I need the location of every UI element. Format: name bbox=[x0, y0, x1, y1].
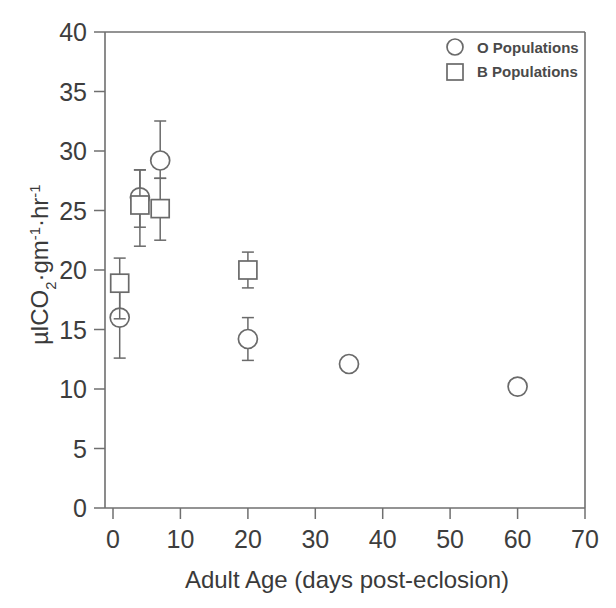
marker-square bbox=[239, 261, 257, 279]
x-tick-label-10: 10 bbox=[166, 525, 194, 553]
series-o-populations bbox=[110, 121, 527, 396]
x-tick-label-0: 0 bbox=[106, 525, 120, 553]
y-axis-title-sup1a: -1 bbox=[27, 227, 43, 240]
legend-circle-icon bbox=[447, 39, 463, 55]
x-axis-ticks: 0 10 20 30 40 50 60 70 bbox=[106, 508, 599, 553]
marker-square bbox=[111, 274, 129, 292]
x-tick-label-50: 50 bbox=[436, 525, 464, 553]
y-axis-ticks: 40 35 30 25 20 15 10 5 0 bbox=[59, 18, 105, 522]
y-tick-label-25: 25 bbox=[59, 197, 87, 225]
x-tick-label-20: 20 bbox=[234, 525, 262, 553]
legend-item-o-populations: O Populations bbox=[447, 39, 579, 56]
scatter-plot-svg: 40 35 30 25 20 15 10 5 0 0 10 2 bbox=[0, 0, 616, 608]
plot-frame bbox=[105, 32, 585, 508]
marker-circle bbox=[340, 355, 359, 374]
y-axis-title-prefix: µlCO bbox=[26, 290, 53, 345]
data-point bbox=[238, 318, 257, 361]
y-axis-title-mid: ·gm bbox=[26, 240, 53, 281]
data-point bbox=[340, 355, 359, 374]
data-point bbox=[131, 170, 149, 246]
x-axis-title: Adult Age (days post-eclosion) bbox=[185, 566, 509, 593]
y-tick-label-40: 40 bbox=[59, 18, 87, 46]
y-axis-title: µlCO2·gm-1·hr-1 bbox=[26, 184, 59, 345]
legend-item-b-populations: B Populations bbox=[447, 63, 578, 80]
y-tick-label-0: 0 bbox=[73, 494, 87, 522]
y-axis-title-sub2: 2 bbox=[43, 282, 59, 290]
marker-square bbox=[151, 200, 169, 218]
legend-label-o: O Populations bbox=[477, 39, 579, 56]
marker-circle bbox=[508, 377, 527, 396]
y-tick-label-5: 5 bbox=[73, 435, 87, 463]
x-tick-label-60: 60 bbox=[504, 525, 532, 553]
y-tick-label-30: 30 bbox=[59, 137, 87, 165]
data-point bbox=[508, 377, 527, 396]
y-tick-label-35: 35 bbox=[59, 78, 87, 106]
marker-circle bbox=[151, 151, 170, 170]
legend-label-b: B Populations bbox=[477, 63, 578, 80]
marker-circle bbox=[238, 330, 257, 349]
data-point bbox=[239, 252, 257, 288]
x-tick-label-70: 70 bbox=[571, 525, 599, 553]
data-point bbox=[151, 178, 169, 240]
x-tick-label-30: 30 bbox=[301, 525, 329, 553]
marker-square bbox=[131, 196, 149, 214]
x-tick-label-40: 40 bbox=[369, 525, 397, 553]
y-tick-label-10: 10 bbox=[59, 375, 87, 403]
y-tick-label-15: 15 bbox=[59, 316, 87, 344]
y-tick-label-20: 20 bbox=[59, 256, 87, 284]
y-axis-title-sup1b: -1 bbox=[27, 184, 43, 197]
y-axis-title-mid2: ·hr bbox=[26, 198, 53, 227]
legend-square-icon bbox=[447, 64, 463, 80]
data-point bbox=[151, 121, 170, 178]
chart-figure: 40 35 30 25 20 15 10 5 0 0 10 2 bbox=[0, 0, 616, 608]
chart-legend: O Populations B Populations bbox=[447, 39, 579, 80]
